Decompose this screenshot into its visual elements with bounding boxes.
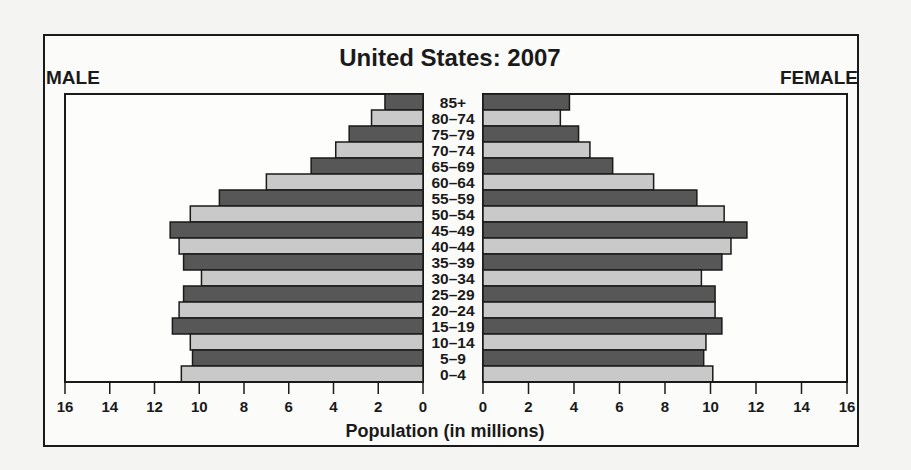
male-bar-50–54 <box>190 206 423 222</box>
male-bar-45–49 <box>170 222 423 238</box>
male-tick-label: 4 <box>329 398 338 415</box>
age-group-label: 60–64 <box>431 174 474 191</box>
male-tick-label: 14 <box>101 398 118 415</box>
male-tick-label: 8 <box>240 398 248 415</box>
female-tick-label: 14 <box>793 398 810 415</box>
age-group-label: 10–14 <box>431 334 474 351</box>
male-bar-65–69 <box>311 158 423 174</box>
age-group-label: 55–59 <box>431 190 474 207</box>
female-bar-70–74 <box>483 142 590 158</box>
male-bar-15–19 <box>172 318 423 334</box>
female-bar-40–44 <box>483 238 731 254</box>
female-bar-20–24 <box>483 302 715 318</box>
male-label: MALE <box>46 67 100 88</box>
female-tick-label: 8 <box>661 398 669 415</box>
male-tick-label: 6 <box>285 398 293 415</box>
female-x-axis: 0246810121416 <box>479 382 856 415</box>
female-bar-0–4 <box>483 366 713 382</box>
female-bar-75–79 <box>483 126 579 142</box>
male-bar-25–29 <box>184 286 423 302</box>
female-bar-65–69 <box>483 158 613 174</box>
age-group-label: 65–69 <box>431 158 474 175</box>
female-bar-30–34 <box>483 270 701 286</box>
age-group-label: 35–39 <box>431 254 474 271</box>
female-tick-label: 12 <box>748 398 765 415</box>
female-tick-label: 2 <box>524 398 532 415</box>
male-tick-label: 16 <box>57 398 74 415</box>
population-pyramid-chart: United States: 2007 MALE FEMALE 85+80–74… <box>0 0 911 470</box>
age-group-label: 80–74 <box>431 110 474 127</box>
male-bar-75–79 <box>349 126 423 142</box>
female-tick-label: 16 <box>839 398 856 415</box>
male-x-axis: 0246810121416 <box>57 382 428 415</box>
male-bar-20–24 <box>179 302 423 318</box>
age-group-label: 0–4 <box>440 366 466 383</box>
male-bar-10–14 <box>190 334 423 350</box>
female-bar-80–74 <box>483 110 560 126</box>
female-bar-15–19 <box>483 318 722 334</box>
male-tick-label: 12 <box>146 398 163 415</box>
age-labels: 85+80–7475–7970–7465–6960–6455–5950–5445… <box>431 94 474 383</box>
female-tick-label: 10 <box>702 398 719 415</box>
age-group-label: 25–29 <box>431 286 474 303</box>
female-bar-85+ <box>483 94 569 110</box>
age-group-label: 5–9 <box>440 350 466 367</box>
male-bars <box>65 94 423 382</box>
age-group-label: 50–54 <box>431 206 474 223</box>
female-bar-25–29 <box>483 286 715 302</box>
female-bar-10–14 <box>483 334 706 350</box>
male-bar-30–34 <box>201 270 423 286</box>
female-bars <box>483 94 847 382</box>
age-group-label: 15–19 <box>431 318 474 335</box>
male-tick-label: 0 <box>419 398 427 415</box>
age-group-label: 45–49 <box>431 222 474 239</box>
age-group-label: 40–44 <box>431 238 474 255</box>
female-tick-label: 0 <box>479 398 487 415</box>
male-bar-70–74 <box>336 142 423 158</box>
age-group-label: 85+ <box>440 94 466 111</box>
female-label: FEMALE <box>780 67 858 88</box>
male-bar-60–64 <box>266 174 423 190</box>
x-axis-label: Population (in millions) <box>346 421 545 441</box>
male-tick-label: 2 <box>374 398 382 415</box>
male-bar-40–44 <box>179 238 423 254</box>
male-bar-35–39 <box>184 254 423 270</box>
age-group-label: 70–74 <box>431 142 474 159</box>
female-bar-5–9 <box>483 350 704 366</box>
male-bar-55–59 <box>219 190 423 206</box>
female-bar-45–49 <box>483 222 747 238</box>
age-group-label: 20–24 <box>431 302 474 319</box>
age-group-label: 75–79 <box>431 126 474 143</box>
male-bar-80–74 <box>372 110 423 126</box>
male-tick-label: 10 <box>191 398 208 415</box>
male-bar-5–9 <box>193 350 423 366</box>
female-bar-35–39 <box>483 254 722 270</box>
female-bar-50–54 <box>483 206 724 222</box>
male-bar-0–4 <box>181 366 423 382</box>
female-tick-label: 4 <box>570 398 579 415</box>
chart-title: United States: 2007 <box>339 44 560 71</box>
female-bar-55–59 <box>483 190 697 206</box>
age-group-label: 30–34 <box>431 270 474 287</box>
male-bar-85+ <box>385 94 423 110</box>
female-tick-label: 6 <box>615 398 623 415</box>
female-bar-60–64 <box>483 174 654 190</box>
